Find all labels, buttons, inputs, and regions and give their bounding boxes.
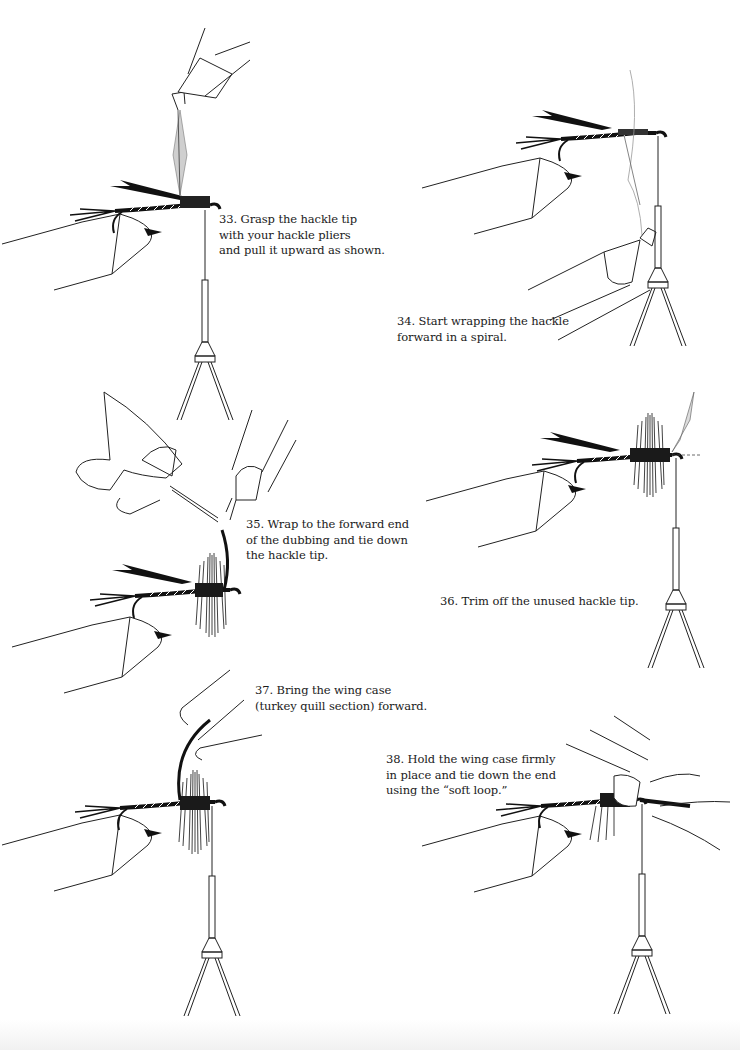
caption-line: 35. Wrap to the forward end	[246, 517, 409, 533]
instruction-page: 33. Grasp the hackle tip with your hackl…	[0, 0, 740, 1050]
step-33-caption: 33. Grasp the hackle tip with your hackl…	[219, 212, 385, 259]
caption-line: using the “soft loop.”	[386, 783, 556, 799]
illustration-step-33	[2, 28, 250, 420]
caption-line: 37. Bring the wing case	[255, 683, 427, 699]
caption-line: and pull it upward as shown.	[219, 243, 385, 259]
caption-line: the hackle tip.	[246, 548, 409, 564]
caption-line: of the dubbing and tie down	[246, 533, 409, 549]
step-37-caption: 37. Bring the wing case (turkey quill se…	[255, 683, 427, 714]
caption-line: 33. Grasp the hackle tip	[219, 212, 385, 228]
page-bottom-edge	[0, 1020, 740, 1050]
step-35-caption: 35. Wrap to the forward end of the dubbi…	[246, 517, 409, 564]
caption-line: 36. Trim off the unused hackle tip.	[440, 594, 639, 610]
caption-line: (turkey quill section) forward.	[255, 699, 427, 715]
caption-line: 38. Hold the wing case firmly	[386, 752, 556, 768]
caption-line: with your hackle pliers	[219, 228, 385, 244]
caption-line: in place and tie down the end	[386, 768, 556, 784]
caption-line: 34. Start wrapping the hackle	[397, 314, 569, 330]
step-38-caption: 38. Hold the wing case firmly in place a…	[386, 752, 556, 799]
illustration-step-37	[2, 670, 262, 1016]
step-34-caption: 34. Start wrapping the hackle forward in…	[397, 314, 569, 345]
step-36-caption: 36. Trim off the unused hackle tip.	[440, 594, 639, 610]
illustration-step-36	[426, 392, 704, 668]
illustration-step-34	[422, 70, 686, 346]
caption-line: forward in a spiral.	[397, 330, 569, 346]
